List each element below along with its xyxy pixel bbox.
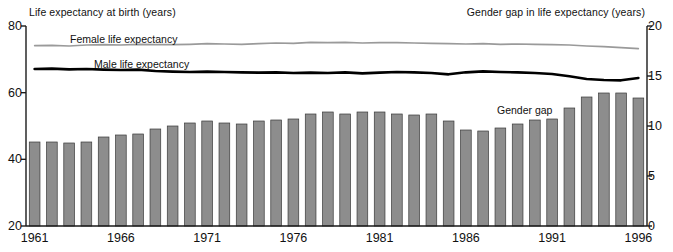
male-line-label: Male life expectancy [94, 58, 189, 70]
x-axis-tick-label: 1971 [193, 231, 221, 245]
chart-container: Life expectancy at birth (years) Gender … [0, 0, 673, 252]
x-axis-tick-label: 1986 [452, 231, 480, 245]
x-axis-tick-label: 1976 [279, 231, 307, 245]
x-axis-tick-label: 1991 [538, 231, 566, 245]
x-axis-tick-label: 1996 [624, 231, 652, 245]
x-axis-tick-label: 1981 [366, 231, 394, 245]
x-axis-tick-label: 1966 [107, 231, 135, 245]
female-line-label: Female life expectancy [70, 33, 177, 45]
gender-gap-label: Gender gap [497, 104, 552, 116]
x-axis-tick-label: 1961 [21, 231, 49, 245]
